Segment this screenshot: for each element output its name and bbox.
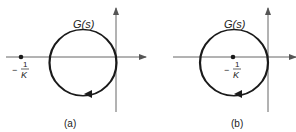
- minus-sign: −: [224, 65, 229, 75]
- critical-point: [231, 55, 236, 60]
- panel-caption: (b): [231, 118, 243, 129]
- curve-label: G(s): [224, 18, 246, 30]
- curve-label: G(s): [73, 18, 95, 30]
- panel-caption: (a): [64, 118, 76, 129]
- fraction-den: K: [21, 70, 28, 80]
- minus-sign: −: [12, 65, 17, 75]
- nyquist-contour: [50, 30, 117, 96]
- panel-b: G(s) − 1 K (b): [173, 8, 296, 129]
- critical-point: [19, 55, 24, 60]
- direction-arrow-icon: [84, 90, 92, 98]
- panel-a: G(s) − 1 K (a): [6, 8, 146, 129]
- fraction-num: 1: [23, 60, 28, 69]
- direction-arrow-icon: [234, 90, 242, 98]
- fraction-num: 1: [235, 60, 240, 69]
- nyquist-contour: [200, 30, 268, 96]
- nyquist-diagram: G(s) − 1 K (a) G(s) − 1 K (b): [0, 0, 296, 132]
- fraction-den: K: [233, 70, 240, 80]
